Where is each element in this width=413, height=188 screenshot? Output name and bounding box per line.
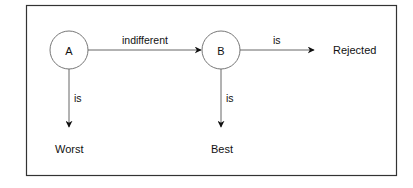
node-a-label: A	[65, 46, 72, 57]
edge-label-b-best: is	[226, 93, 234, 104]
diagram-canvas: A B indifferent is is is Worst Best Reje…	[0, 0, 413, 188]
diagram-graphics	[0, 0, 413, 188]
terminal-best: Best	[211, 144, 233, 155]
node-b-label: B	[217, 46, 224, 57]
edge-label-a-worst: is	[74, 93, 82, 104]
edge-label-indifferent: indifferent	[122, 35, 168, 46]
terminal-worst: Worst	[55, 144, 84, 155]
terminal-rejected: Rejected	[333, 45, 376, 56]
edge-label-b-rejected: is	[273, 35, 281, 46]
